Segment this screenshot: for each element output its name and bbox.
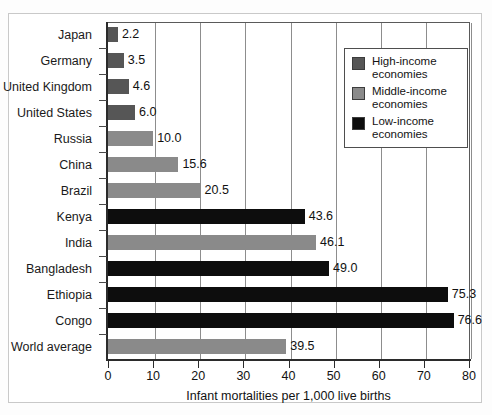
bar [108, 209, 305, 224]
bar [108, 105, 135, 120]
bar [108, 261, 329, 276]
bar-value-label: 75.3 [452, 287, 476, 302]
x-axis-tick-label: 0 [88, 369, 128, 383]
bar-value-label: 2.2 [122, 27, 139, 42]
x-axis-tick [289, 361, 290, 368]
y-axis-tick [99, 126, 107, 127]
bar [108, 79, 129, 94]
x-axis-tick [469, 361, 470, 368]
bar-value-label: 10.0 [157, 131, 181, 146]
y-axis-tick [99, 178, 107, 179]
x-axis-tick [379, 361, 380, 368]
bar-value-label: 43.6 [309, 209, 333, 224]
legend-swatch-icon [352, 87, 365, 100]
legend-label: Low-incomeeconomies [372, 115, 434, 140]
chart-legend: High-incomeeconomiesMiddle-incomeeconomi… [344, 48, 468, 148]
bar-value-label: 20.5 [205, 183, 229, 198]
bar-value-label: 15.6 [182, 157, 206, 172]
category-label: Kenya [0, 204, 92, 230]
bar [108, 27, 118, 42]
bar [108, 313, 454, 328]
x-axis-tick [153, 361, 154, 368]
x-axis-tick-label: 50 [314, 369, 354, 383]
y-axis-tick [99, 334, 107, 335]
chart-row: China15.6 [0, 152, 492, 178]
chart-row: Kenya43.6 [0, 204, 492, 230]
y-axis-tick [99, 48, 107, 49]
x-axis-tick-label: 30 [223, 369, 263, 383]
bar-value-label: 6.0 [139, 105, 156, 120]
y-axis-tick [99, 74, 107, 75]
category-label: India [0, 230, 92, 256]
legend-label-line1: Low-income [372, 115, 434, 128]
legend-swatch-icon [352, 117, 365, 130]
category-label: United Kingdom [0, 74, 92, 100]
category-label: United States [0, 100, 92, 126]
category-label: China [0, 152, 92, 178]
chart-row: Japan2.2 [0, 22, 492, 48]
bar [108, 339, 286, 354]
legend-label-line1: Middle-income [372, 85, 447, 98]
x-axis-tick [424, 361, 425, 368]
bar-value-label: 39.5 [290, 339, 314, 354]
chart-figure: Japan2.2Germany3.5United Kingdom4.6Unite… [0, 0, 492, 415]
x-axis-tick-label: 10 [133, 369, 173, 383]
legend-label: High-incomeeconomies [372, 55, 437, 80]
chart-row: Ethiopia75.3 [0, 282, 492, 308]
x-axis-tick [198, 361, 199, 368]
category-label: Bangladesh [0, 256, 92, 282]
y-axis-tick [99, 230, 107, 231]
legend-label-line2: economies [372, 128, 434, 141]
legend-label-line1: High-income [372, 55, 437, 68]
bar [108, 183, 201, 198]
chart-row: Congo76.6 [0, 308, 492, 334]
bar-value-label: 3.5 [128, 53, 145, 68]
y-axis-tick [99, 308, 107, 309]
chart-row: India46.1 [0, 230, 492, 256]
category-label: Congo [0, 308, 92, 334]
bar-value-label: 4.6 [133, 79, 150, 94]
bar-value-label: 49.0 [333, 261, 357, 276]
category-label: Russia [0, 126, 92, 152]
x-axis-tick-label: 60 [359, 369, 399, 383]
x-axis-tick-label: 20 [178, 369, 218, 383]
category-label: Ethiopia [0, 282, 92, 308]
bar [108, 235, 316, 250]
chart-row: World average39.5 [0, 334, 492, 360]
legend-swatch-icon [352, 57, 365, 70]
legend-label-line2: economies [372, 68, 437, 81]
bar [108, 131, 153, 146]
bar [108, 53, 124, 68]
y-axis-tick [99, 100, 107, 101]
legend-item: High-incomeeconomies [352, 55, 461, 80]
y-axis-tick [99, 256, 107, 257]
category-label: World average [0, 334, 92, 360]
chart-row: Brazil20.5 [0, 178, 492, 204]
x-axis-tick [243, 361, 244, 368]
category-label: Japan [0, 22, 92, 48]
chart-row: Bangladesh49.0 [0, 256, 492, 282]
bar [108, 287, 448, 302]
bar-value-label: 76.6 [458, 313, 482, 328]
legend-item: Middle-incomeeconomies [352, 85, 461, 110]
legend-item: Low-incomeeconomies [352, 115, 461, 140]
y-axis-tick [99, 282, 107, 283]
legend-label: Middle-incomeeconomies [372, 85, 447, 110]
x-axis-tick-label: 70 [404, 369, 444, 383]
bar [108, 157, 178, 172]
y-axis-tick [99, 204, 107, 205]
x-axis-tick-label: 40 [269, 369, 309, 383]
legend-label-line2: economies [372, 98, 447, 111]
x-axis-title: Infant mortalities per 1,000 live births [106, 389, 471, 403]
category-label: Germany [0, 48, 92, 74]
y-axis-tick [99, 152, 107, 153]
category-label: Brazil [0, 178, 92, 204]
x-axis-tick-label: 80 [449, 369, 489, 383]
bar-value-label: 46.1 [320, 235, 344, 250]
x-axis-tick [108, 361, 109, 368]
x-axis-tick [334, 361, 335, 368]
